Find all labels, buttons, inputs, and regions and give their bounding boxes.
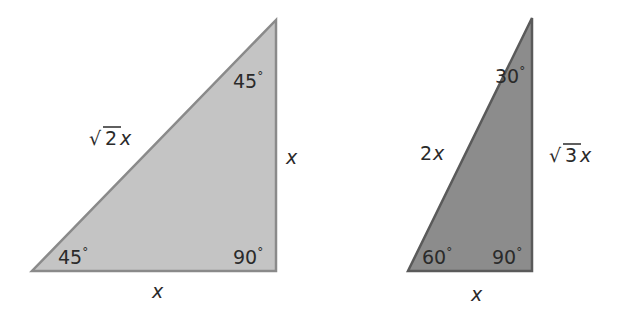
horizontal-leg-label-x: x bbox=[470, 283, 483, 305]
vertical-leg-label-x: x bbox=[285, 146, 298, 168]
hypotenuse-label-2x: 2 x bbox=[420, 142, 445, 164]
radicand: 2 bbox=[105, 127, 117, 149]
variable-x: x bbox=[119, 127, 132, 149]
radicand: 3 bbox=[565, 144, 577, 166]
horizontal-leg-label-x: x bbox=[151, 280, 164, 302]
special-right-triangles-diagram: 45° 45° 90° √ 2 x x x 30° 60° 90° 2 x bbox=[0, 0, 620, 321]
variable-x: x bbox=[432, 142, 445, 164]
variable-x: x bbox=[579, 144, 592, 166]
triangle-45-45-90: 45° 45° 90° √ 2 x x x bbox=[32, 20, 298, 302]
hypotenuse-label-sqrt2x: √ 2 x bbox=[89, 127, 132, 149]
triangle-30-60-90: 30° 60° 90° 2 x √ 3 x x bbox=[408, 18, 592, 305]
vertical-leg-label-sqrt3x: √ 3 x bbox=[549, 144, 592, 166]
radical-sign: √ bbox=[89, 127, 102, 149]
coefficient-2: 2 bbox=[420, 142, 432, 164]
triangle-45-shape bbox=[32, 20, 276, 271]
radical-sign: √ bbox=[549, 144, 562, 166]
